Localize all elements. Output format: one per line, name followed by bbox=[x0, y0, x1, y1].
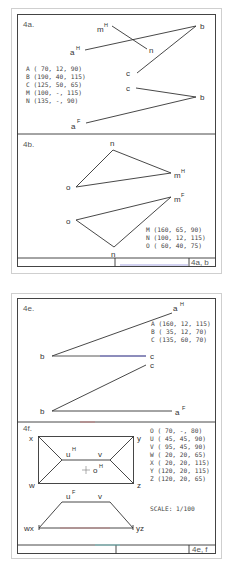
label-y: y bbox=[137, 434, 141, 443]
hip-wu bbox=[39, 460, 63, 484]
panel-title: 4a. bbox=[23, 20, 34, 29]
line-bc-f bbox=[52, 365, 146, 411]
label-x: x bbox=[29, 434, 33, 443]
label-v-f: v bbox=[98, 492, 102, 501]
coord-y: Y (120, 20, 115) bbox=[150, 467, 210, 474]
sheet-tag: 4a, b bbox=[191, 258, 209, 267]
panel-title: 4e. bbox=[23, 304, 34, 313]
drawing-sheet: 4a, b 4a. a H m H n b c c b a F A ( 70, … bbox=[0, 0, 233, 570]
label-wx: wx bbox=[23, 524, 34, 533]
label-b-f: b bbox=[40, 407, 45, 416]
coord-a: A (160, 12, 115) bbox=[151, 320, 211, 327]
coord-n: N (135, -, 90) bbox=[26, 97, 78, 104]
label-b-h: b bbox=[40, 352, 45, 361]
label-o-f: o bbox=[66, 217, 71, 226]
label-m-f: m bbox=[174, 195, 181, 204]
line-ba-f bbox=[86, 97, 196, 123]
coord-z: Z (120, 20, 65) bbox=[150, 475, 206, 482]
label-n-h: n bbox=[110, 139, 114, 148]
label-a-f: a bbox=[71, 122, 76, 131]
label-sup: H bbox=[76, 45, 80, 51]
label-sup: H bbox=[104, 22, 108, 28]
label-z: z bbox=[137, 481, 141, 490]
label-sup: F bbox=[77, 118, 81, 124]
sheet-tag: 4e, f bbox=[192, 545, 208, 554]
coord-v: V ( 95, 45, 90) bbox=[150, 443, 206, 450]
label-c-h: c bbox=[150, 352, 154, 361]
hip-yv bbox=[110, 437, 134, 461]
coord-o: O ( 70, -, 80) bbox=[150, 427, 202, 434]
label-sup: F bbox=[182, 405, 186, 411]
label-m-h: m bbox=[174, 171, 181, 180]
panel-4f: 4f. x y w z u H v o H u F bbox=[23, 424, 210, 533]
label-m-h: m bbox=[97, 25, 104, 34]
label-sup: H bbox=[99, 463, 103, 469]
label-o-h: o bbox=[66, 183, 71, 192]
coord-w: W ( 20, 20, 65) bbox=[150, 451, 206, 458]
hip-zv bbox=[110, 460, 134, 484]
panel-4e: 4e. a H b c c b a F A (160, 12, 115) B (… bbox=[23, 301, 211, 417]
coordinate-list: A (160, 12, 115) B ( 35, 12, 70) C (135,… bbox=[151, 320, 211, 343]
label-n: n bbox=[149, 46, 153, 55]
coord-c: C (125, 50, 65) bbox=[26, 81, 82, 88]
label-sup: F bbox=[181, 192, 185, 198]
label-c-f: c bbox=[150, 361, 154, 370]
panel-4b: 4b. n m H o m F o n M (160, 65, 90) N (1… bbox=[23, 139, 206, 259]
label-c-h: c bbox=[126, 69, 130, 78]
label-o-h: o bbox=[93, 466, 98, 475]
label-n-f: n bbox=[111, 250, 115, 259]
coord-c: C (135, 60, 70) bbox=[151, 336, 207, 343]
panel-title: 4f. bbox=[23, 424, 32, 433]
label-b-h: b bbox=[200, 22, 205, 31]
coordinate-list: O ( 70, -, 80) U ( 45, 45, 90) V ( 95, 4… bbox=[150, 427, 210, 482]
coord-u: U ( 45, 45, 90) bbox=[150, 435, 206, 442]
label-u-f: u bbox=[66, 492, 70, 501]
hip-xu bbox=[39, 437, 63, 461]
coord-n: N (100, 12, 115) bbox=[146, 234, 206, 241]
label-u-h: u bbox=[66, 450, 70, 459]
label-v-h: v bbox=[98, 450, 102, 459]
coordinate-list: M (160, 65, 90) N (100, 12, 115) O ( 60,… bbox=[146, 226, 206, 249]
coord-b: B ( 35, 12, 70) bbox=[151, 328, 207, 335]
sheet-2: 4e, f 4e. a H b c c b a F A (160, 12, 11… bbox=[12, 294, 222, 559]
label-b-f: b bbox=[200, 93, 205, 102]
label-c-f: c bbox=[126, 84, 130, 93]
label-a-f: a bbox=[175, 408, 180, 417]
line-cb-f bbox=[136, 88, 196, 97]
label-sup: F bbox=[72, 489, 76, 495]
coord-a: A ( 70, 12, 90) bbox=[26, 65, 82, 72]
label-a-h: a bbox=[173, 304, 178, 313]
coord-m: M (160, 65, 90) bbox=[146, 226, 202, 233]
triangle-h bbox=[76, 150, 171, 187]
scale-label: SCALE: 1/100 bbox=[150, 505, 195, 512]
line-bc-h bbox=[137, 26, 196, 73]
label-sup: H bbox=[181, 168, 185, 174]
coordinate-list: A ( 70, 12, 90) B (190, 40, 115) C (125,… bbox=[26, 65, 86, 104]
roof-profile-f bbox=[39, 502, 133, 528]
label-a-h: a bbox=[70, 48, 75, 57]
coord-b: B (190, 40, 115) bbox=[26, 73, 86, 80]
panel-4a: 4a. a H m H n b c c b a F A ( 70, 12, 90… bbox=[23, 20, 205, 131]
coord-x: X ( 20, 20, 115) bbox=[150, 459, 210, 466]
coord-m: M (100, -, 115) bbox=[26, 89, 82, 96]
coord-o: O ( 60, 40, 75) bbox=[146, 242, 202, 249]
label-w: w bbox=[28, 481, 35, 490]
sheet-1: 4a, b 4a. a H m H n b c c b a F A ( 70, … bbox=[12, 9, 222, 274]
label-sup: H bbox=[72, 446, 76, 452]
label-yz: yz bbox=[136, 524, 144, 533]
label-sup: H bbox=[180, 301, 184, 307]
panel-title: 4b. bbox=[23, 140, 34, 149]
